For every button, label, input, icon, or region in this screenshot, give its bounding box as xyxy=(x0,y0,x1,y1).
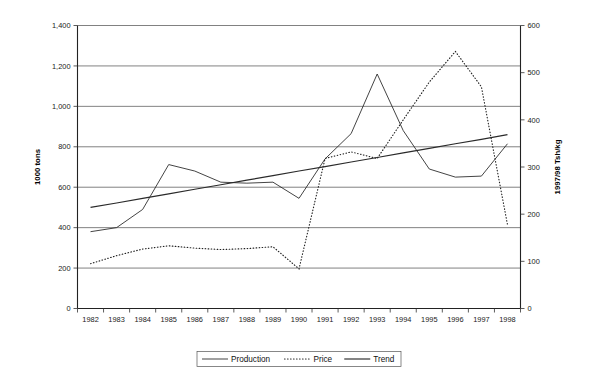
y-axis-right-tick-label: 0 xyxy=(528,304,532,313)
series-line-price xyxy=(91,51,508,268)
x-axis-tick-label: 1994 xyxy=(395,315,411,324)
chart-svg: 02004006008001,0001,2001,400 01002003004… xyxy=(0,0,592,383)
x-axis-tick-label: 1997 xyxy=(473,315,489,324)
y-axis-right-tick-label: 200 xyxy=(528,210,540,219)
series-line-production xyxy=(91,74,508,232)
x-axis-tick-label: 1993 xyxy=(369,315,385,324)
gridlines xyxy=(78,26,521,269)
y-axis-left-title: 1000 tons xyxy=(33,148,42,185)
y-axis-left-tick-label: 1,200 xyxy=(52,62,71,71)
x-axis-tick-label: 1985 xyxy=(160,315,176,324)
y-axis-left-ticks: 02004006008001,0001,2001,400 xyxy=(52,21,78,313)
x-axis-tick-label: 1982 xyxy=(82,315,98,324)
y-axis-left-tick-label: 800 xyxy=(58,142,70,151)
y-axis-left-tick-label: 1,400 xyxy=(52,21,71,30)
axis-titles: 1000 tons1997/98 Tsh/kg xyxy=(33,139,562,194)
plot-axes xyxy=(78,26,521,309)
x-axis-tick-label: 1984 xyxy=(134,315,150,324)
y-axis-right-tick-label: 500 xyxy=(528,68,540,77)
series-line-trend xyxy=(91,135,508,208)
y-axis-right-tick-label: 100 xyxy=(528,257,540,266)
y-axis-left-tick-label: 600 xyxy=(58,183,70,192)
x-axis-tick-label: 1988 xyxy=(239,315,255,324)
legend-label-production: Production xyxy=(231,355,271,364)
data-series xyxy=(91,51,508,268)
x-axis-tick-label: 1990 xyxy=(291,315,307,324)
y-axis-left-tick-label: 400 xyxy=(58,223,70,232)
y-axis-left-tick-label: 0 xyxy=(66,304,70,313)
x-axis-tick-label: 1998 xyxy=(499,315,515,324)
y-axis-left-tick-label: 200 xyxy=(58,264,70,273)
legend-item-price[interactable]: Price xyxy=(285,355,333,364)
legend-item-production[interactable]: Production xyxy=(202,355,271,364)
legend-label-trend: Trend xyxy=(373,355,395,364)
legend-item-trend[interactable]: Trend xyxy=(344,355,395,364)
chart-container: 02004006008001,0001,2001,400 01002003004… xyxy=(0,0,592,383)
x-axis-tick-label: 1989 xyxy=(265,315,281,324)
y-axis-right-title: 1997/98 Tsh/kg xyxy=(553,139,562,194)
x-axis-ticks: 1982198319841985198619871988198919901991… xyxy=(78,309,521,325)
legend-label-price: Price xyxy=(314,355,333,364)
y-axis-right-ticks: 0100200300400500600 xyxy=(521,21,540,313)
x-axis-tick-label: 1991 xyxy=(317,315,333,324)
y-axis-right-tick-label: 400 xyxy=(528,116,540,125)
y-axis-right-tick-label: 600 xyxy=(528,21,540,30)
x-axis-tick-label: 1995 xyxy=(421,315,437,324)
x-axis-tick-label: 1996 xyxy=(447,315,463,324)
x-axis-tick-label: 1987 xyxy=(213,315,229,324)
x-axis-tick-label: 1992 xyxy=(343,315,359,324)
x-axis-tick-label: 1986 xyxy=(187,315,203,324)
x-axis-tick-label: 1983 xyxy=(108,315,124,324)
y-axis-left-tick-label: 1,000 xyxy=(52,102,71,111)
y-axis-right-tick-label: 300 xyxy=(528,163,540,172)
chart-legend: ProductionPriceTrend xyxy=(197,352,401,367)
